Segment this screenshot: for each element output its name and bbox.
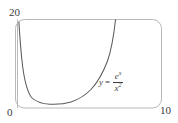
equation-annotation: y = ex x2 <box>99 72 123 93</box>
equation-equals-sign: = <box>105 78 110 87</box>
graph-figure: 20 0 10 y = ex x2 <box>0 0 178 123</box>
plot-canvas <box>0 0 178 123</box>
equation-numerator: ex <box>114 72 123 81</box>
y-axis-max-label: 20 <box>9 7 20 18</box>
equation-lhs: y <box>99 78 103 87</box>
equation-numerator-exponent: x <box>119 70 122 76</box>
equation-denominator: x2 <box>114 84 123 93</box>
origin-label: 0 <box>7 107 13 118</box>
plot-frame <box>16 20 162 109</box>
equation-denominator-exponent: 2 <box>119 82 122 88</box>
equation-fraction: ex x2 <box>113 72 123 93</box>
x-axis-max-label: 10 <box>160 105 171 116</box>
